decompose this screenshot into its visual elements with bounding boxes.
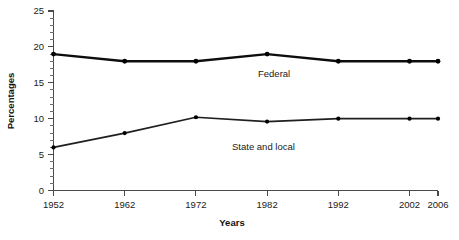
line-chart: 0510152025 1952196219721982199220022006 … [0,0,459,240]
x-tick-label: 1982 [257,199,278,210]
x-tick-label: 2006 [427,199,448,210]
series-annotation-federal: Federal [258,68,290,79]
y-axis-title: Percentages [5,73,16,130]
x-axis-tick-labels: 1952196219721982199220022006 [43,199,449,210]
data-point [336,117,340,121]
chart-canvas: 0510152025 1952196219721982199220022006 … [0,0,459,240]
series-line-federal [54,54,439,61]
data-point [122,59,127,64]
data-point [436,59,441,64]
x-axis-major-ticks [54,191,439,197]
y-tick-label: 10 [33,113,44,124]
x-tick-label: 1952 [43,199,64,210]
data-point [194,59,199,64]
data-point [265,119,269,123]
y-axis-major-ticks [48,11,54,191]
x-axis-title: Years [219,217,244,228]
y-axis-tick-labels: 0510152025 [33,5,44,196]
data-point [194,115,198,119]
data-point [436,117,440,121]
data-point [336,59,341,64]
data-point [51,145,55,149]
y-tick-label: 0 [39,185,44,196]
y-tick-label: 25 [33,5,44,16]
data-point [407,59,412,64]
series-annotation-state-and-local: State and local [232,141,295,152]
data-point [265,52,270,57]
x-tick-label: 1972 [185,199,206,210]
y-tick-label: 20 [33,41,44,52]
y-tick-label: 15 [33,77,44,88]
data-point [51,52,56,57]
x-tick-label: 1992 [328,199,349,210]
x-tick-label: 2002 [399,199,420,210]
y-tick-label: 5 [39,149,44,160]
data-point [123,131,127,135]
x-tick-label: 1962 [114,199,135,210]
data-point [407,117,411,121]
